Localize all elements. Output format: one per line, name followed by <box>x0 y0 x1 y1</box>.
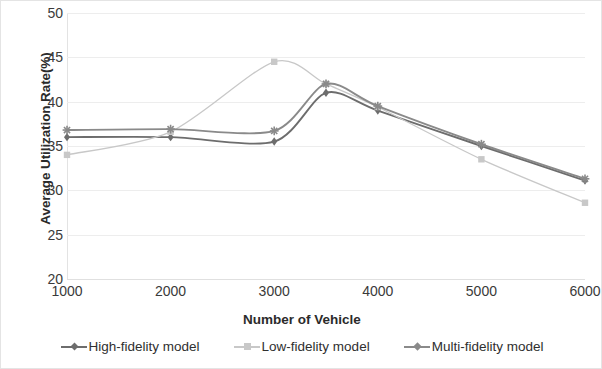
data-point-marker <box>323 89 329 97</box>
y-axis-tick-label: 35 <box>31 139 63 153</box>
legend-label: Low-fidelity model <box>262 339 370 354</box>
data-point-marker <box>478 156 484 162</box>
x-axis-title: Number of Vehicle <box>1 312 602 327</box>
legend-item[interactable]: Low-fidelity model <box>234 339 370 354</box>
legend-marker-icon <box>404 341 430 353</box>
legend-marker-icon <box>234 341 260 353</box>
x-axis-tick-label: 3000 <box>239 283 309 299</box>
data-point-marker <box>373 102 382 111</box>
data-point-marker <box>64 152 70 158</box>
x-axis-tick-label: 2000 <box>136 283 206 299</box>
data-point-marker <box>271 137 277 145</box>
y-axis-tick-labels: 20253035404550 <box>31 13 63 279</box>
x-axis-tick-label: 5000 <box>446 283 516 299</box>
x-axis-tick-label: 4000 <box>343 283 413 299</box>
y-axis-tick-label: 50 <box>31 6 63 20</box>
series-line <box>67 92 585 181</box>
data-point-marker <box>581 174 590 183</box>
data-point-marker <box>63 126 72 135</box>
legend-marker-icon <box>61 341 87 353</box>
data-point-marker <box>166 125 175 134</box>
legend-item[interactable]: High-fidelity model <box>61 339 200 354</box>
series-layer <box>67 13 585 279</box>
y-axis-tick-label: 25 <box>31 228 63 242</box>
series-line <box>67 83 585 178</box>
y-axis-tick-label: 40 <box>31 95 63 109</box>
data-point-marker <box>322 80 331 89</box>
y-axis-tick-label: 30 <box>31 183 63 197</box>
line-chart: Average Utilization Rate(%) 202530354045… <box>0 0 602 369</box>
gridline <box>67 279 585 280</box>
legend-label: Multi-fidelity model <box>432 339 544 354</box>
y-axis-tick-label: 45 <box>31 50 63 64</box>
x-axis-tick-label: 6000 <box>550 283 602 299</box>
plot-area <box>67 13 585 279</box>
data-point-marker <box>582 200 588 206</box>
data-point-marker <box>270 127 279 136</box>
data-point-marker <box>271 59 277 65</box>
legend-item[interactable]: Multi-fidelity model <box>404 339 544 354</box>
data-point-marker <box>477 140 486 149</box>
legend-label: High-fidelity model <box>89 339 200 354</box>
x-axis-tick-labels: 100020003000400050006000 <box>67 283 585 305</box>
x-axis-tick-label: 1000 <box>32 283 102 299</box>
chart-legend: High-fidelity modelLow-fidelity modelMul… <box>1 339 602 354</box>
